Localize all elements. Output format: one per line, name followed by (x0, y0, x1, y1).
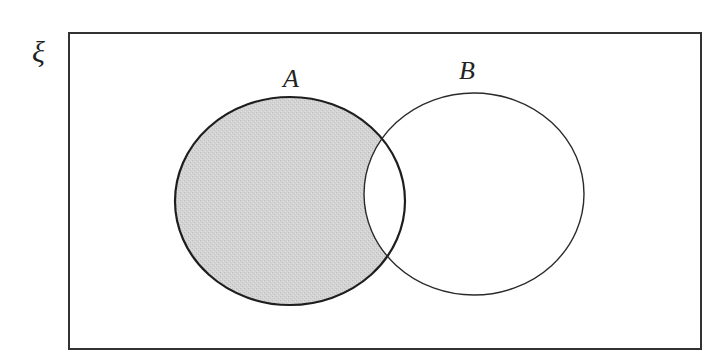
set-b-label: B (459, 56, 475, 85)
venn-diagram: ξ A B (0, 0, 722, 359)
universal-set-label: ξ (32, 35, 45, 68)
set-a-label: A (281, 64, 299, 93)
